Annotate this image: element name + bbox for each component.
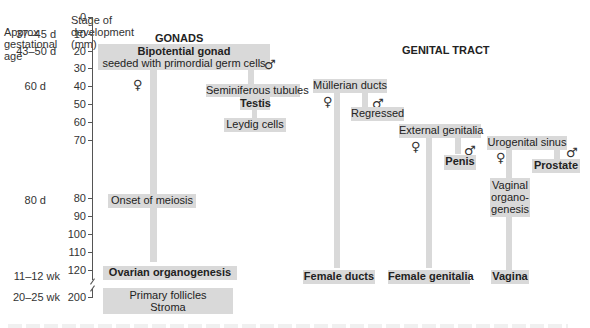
male-gonad-connector [248, 70, 254, 84]
age-label: 11–12 wk [0, 270, 60, 282]
tick-mark [88, 86, 93, 87]
urogenital-sinus-box: Urogenital sinus [487, 136, 567, 150]
age-label: 43–50 d [0, 45, 56, 57]
female-symbol-icon: ♀ [496, 151, 506, 164]
tick-mark [88, 104, 93, 105]
ovarian-organogenesis-box: Ovarian organogenesis [103, 266, 237, 280]
tick-mark [88, 140, 93, 141]
regressed-connector [362, 93, 368, 107]
seminiferous-tubules-box: Seminiferous tubules [206, 84, 300, 97]
tick-label: 110 [56, 246, 86, 258]
regressed-box: Regressed [351, 107, 404, 121]
male-symbol-icon: ♂ [264, 58, 276, 71]
vaginal-organogenesis-line: genesis [490, 203, 530, 215]
tick-label: 90 [56, 210, 86, 222]
tick-label: 80 [56, 192, 86, 204]
vaginal-organogenesis-box: Vaginal organo- genesis [490, 178, 530, 217]
bipotential-gonad-box: Bipotential gonad seeded with primordial… [98, 44, 270, 70]
testis-connector [252, 110, 257, 118]
stroma-label: Stroma [103, 301, 233, 313]
primary-follicles-label: Primary follicles [103, 289, 233, 301]
age-label: 20–25 wk [0, 291, 60, 303]
tick-label: 120 [56, 264, 86, 276]
female-ducts-pathway-bar [334, 93, 340, 268]
bipotential-gonad-desc: seeded with primordial germ cells [98, 57, 270, 69]
tick-mark [88, 234, 93, 235]
tick-mark [88, 198, 93, 199]
female-symbol-icon: ♀ [411, 140, 421, 153]
tick-mark [88, 270, 93, 271]
vaginal-organogenesis-line: Vaginal [490, 179, 530, 191]
bipotential-gonad-title: Bipotential gonad [98, 45, 270, 57]
stage-axis-line [92, 17, 93, 280]
primary-follicles-stroma-box: Primary follicles Stroma [103, 288, 233, 314]
penis-connector [455, 138, 461, 154]
tick-mark [88, 51, 93, 52]
leydig-cells-box: Leydig cells [224, 118, 286, 132]
tick-label: 70 [56, 134, 86, 146]
age-label: 80 d [0, 194, 46, 206]
tick-label: 50 [56, 98, 86, 110]
female-ducts-box: Female ducts [303, 270, 375, 284]
tick-label: 0 [56, 11, 86, 23]
tick-label: 20 [56, 45, 86, 57]
tick-label: 200 [56, 291, 86, 303]
age-label: 60 d [0, 80, 46, 92]
tick-label: 40 [56, 80, 86, 92]
penis-box: Penis [444, 155, 476, 170]
tick-label: 60 [56, 116, 86, 128]
female-symbol-icon: ♀ [323, 95, 333, 108]
age-label: 37–45 d [0, 28, 56, 40]
tick-label: 10 [56, 28, 86, 40]
tick-mark [88, 252, 93, 253]
tick-mark [88, 122, 93, 123]
tick-mark [88, 297, 93, 298]
vaginal-organogenesis-line: organo- [490, 191, 530, 203]
tick-mark [88, 68, 93, 69]
mullerian-ducts-box: Müllerian ducts [313, 79, 387, 93]
male-symbol-icon: ♂ [566, 146, 578, 159]
onset-of-meiosis-box: Onset of meiosis [108, 194, 196, 208]
tick-label: 30 [56, 62, 86, 74]
tick-mark [88, 216, 93, 217]
tick-mark [88, 34, 93, 35]
female-symbol-icon: ♀ [133, 78, 143, 91]
gonads-title: GONADS [155, 32, 203, 44]
external-genitalia-box: External genitalia [399, 124, 481, 138]
cropped-caption-strip [8, 324, 568, 328]
tick-label: 100 [56, 228, 86, 240]
tick-mark [88, 17, 93, 18]
vagina-box: Vagina [491, 270, 529, 284]
axis-break-mark [90, 278, 95, 284]
genital-tract-title: GENITAL TRACT [402, 44, 490, 56]
testis-box: Testis [240, 97, 270, 110]
prostate-box: Prostate [532, 159, 580, 173]
female-gonad-pathway-bar [150, 70, 157, 262]
female-genitalia-box: Female genitalia [388, 270, 470, 284]
female-genitalia-pathway-bar [426, 138, 432, 268]
